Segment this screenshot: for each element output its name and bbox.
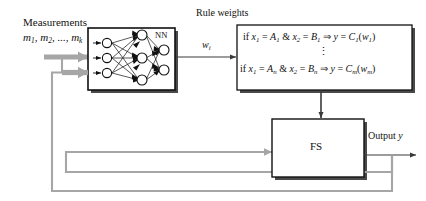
weight-signal-label: wi [202, 40, 211, 51]
nn-label: NN [155, 31, 168, 40]
rules-ellipsis: ⋮ [318, 48, 328, 55]
measurements-vars-label: m1, m2, ..., mk [23, 32, 82, 45]
output-label: Output y [368, 131, 403, 142]
rule-last: if x1 = An & x2 = Bn ⇒ y = Cm(wm) [240, 64, 375, 75]
rule-first: if x1 = A1 & x2 = B1 ⇒ y = C1(w1) [243, 32, 375, 43]
rule-weights-label: Rule weights [196, 8, 249, 19]
nn-hidden-nodes [137, 30, 147, 85]
fs-label: FS [310, 141, 322, 153]
measurements-label: Measurements [23, 17, 87, 29]
nn-input-nodes [102, 38, 111, 77]
diagram-canvas: Measurements m1, m2, ..., mk NN Rule wei… [0, 0, 426, 201]
